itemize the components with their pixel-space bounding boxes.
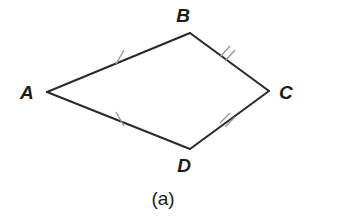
edge-cd [190,91,269,149]
vertex-label-a: A [19,82,34,103]
vertex-label-c: C [279,82,293,103]
geometry-figure: A B C D (a) [0,0,351,222]
tick-bc [220,46,235,61]
figure-container: A B C D (a) [0,0,351,222]
figure-caption: (a) [151,188,174,209]
edge-ab [47,33,190,92]
edge-da [47,92,190,149]
vertex-label-d: D [177,155,191,176]
edge-bc [190,33,269,91]
vertex-label-b: B [176,5,190,26]
